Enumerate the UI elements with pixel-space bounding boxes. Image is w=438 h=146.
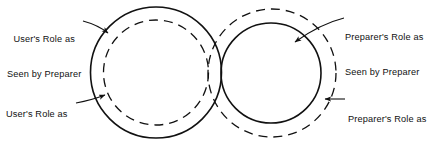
figure-container: User's Role as Seen by Preparer User's R… <box>0 0 438 145</box>
label-preparer-role-seen-by-user: Preparer's Role as Seen by User <box>348 91 427 145</box>
right-solid-circle <box>221 23 321 123</box>
label-preparer-role-seen-by-preparer: Preparer's Role as Seen by Preparer <box>345 9 424 101</box>
label-line-1: Preparer's Role as <box>345 32 424 44</box>
label-line-2: Seen by User <box>6 144 68 146</box>
left-dashed-circle <box>104 20 209 125</box>
left-solid-circle <box>91 7 222 138</box>
label-line-1: User's Role as <box>7 34 81 46</box>
label-line-2: Seen by Preparer <box>345 67 424 79</box>
label-user-role-seen-by-user: User's Role as Seen by User <box>6 86 68 145</box>
label-line-2: Seen by Preparer <box>7 69 81 81</box>
label-line-1: User's Role as <box>6 109 68 121</box>
label-line-1: Preparer's Role as <box>348 114 427 126</box>
leader-line-preparer-by-preparer <box>295 18 344 42</box>
